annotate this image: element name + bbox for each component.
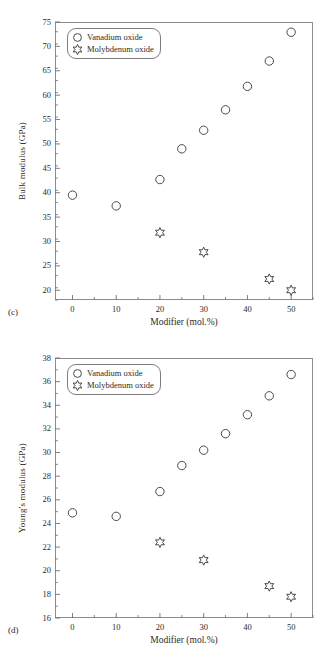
y-tick-label-d: 28 [23, 471, 51, 481]
y-tick-label-d: 30 [23, 447, 51, 457]
x-tick-label-d: 50 [277, 622, 305, 632]
y-tick-label-d: 32 [23, 423, 51, 433]
legend-label: Molybdenum oxide [87, 380, 154, 391]
x-tick-label-d: 30 [190, 622, 218, 632]
legend-item: Vanadium oxide [72, 367, 154, 379]
legend-item: Molybdenum oxide [72, 379, 154, 391]
panel-label-d: (d) [8, 625, 19, 635]
y-tick-label-d: 36 [23, 376, 51, 386]
x-tick-label-d: 40 [233, 622, 261, 632]
x-tick-label-d: 20 [146, 622, 174, 632]
y-tick-label-d: 38 [23, 353, 51, 363]
y-tick-label-d: 16 [23, 613, 51, 623]
star-marker-icon [72, 380, 83, 391]
circle-marker-icon [72, 368, 83, 379]
plot-svg-d [0, 0, 329, 340]
y-tick-label-d: 18 [23, 589, 51, 599]
x-tick-label-d: 10 [102, 622, 130, 632]
y-tick-label-d: 20 [23, 565, 51, 575]
legend-label: Vanadium oxide [87, 368, 142, 379]
y-tick-label-d: 24 [23, 518, 51, 528]
y-axis-title-d: Young's modulus (GPa) [17, 358, 27, 618]
y-tick-label-d: 22 [23, 542, 51, 552]
axes-frame-d [55, 358, 313, 618]
x-tick-label-d: 0 [58, 622, 86, 632]
legend-d: Vanadium oxideMolybdenum oxide [67, 364, 161, 395]
y-tick-label-d: 26 [23, 494, 51, 504]
x-axis-title-d: Modifier (mol.%) [55, 635, 313, 645]
y-tick-label-d: 34 [23, 400, 51, 410]
figure-panel-d: 16182022242628303234363801020304050Young… [0, 335, 329, 671]
